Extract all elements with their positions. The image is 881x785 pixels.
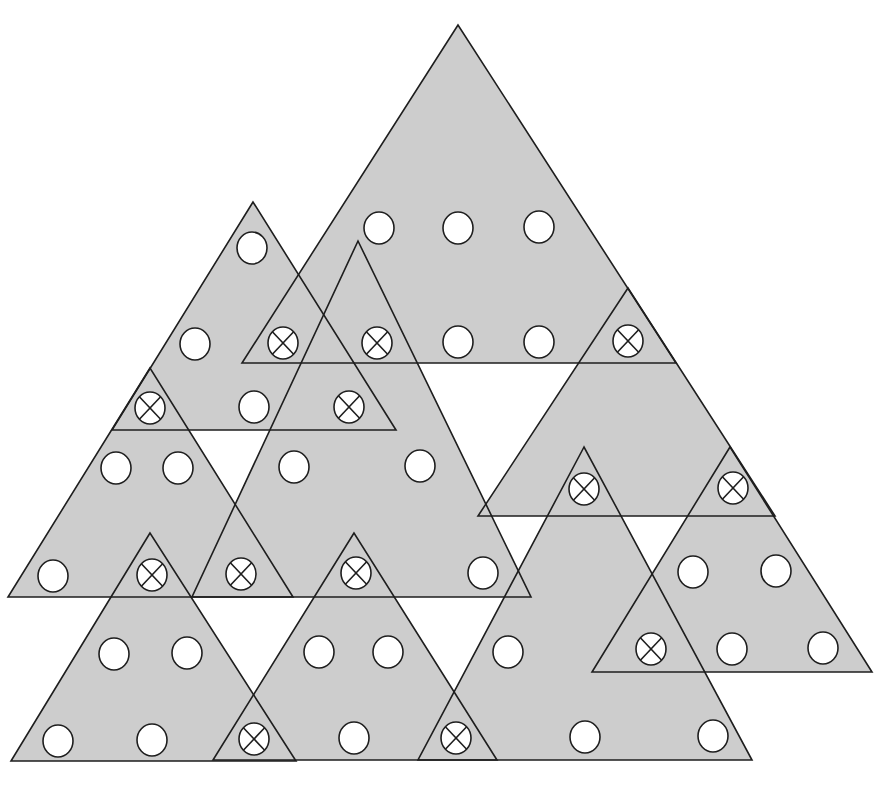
crossed-circle-icon bbox=[441, 722, 471, 754]
crossed-circle-icon bbox=[718, 472, 748, 504]
diagram-canvas bbox=[0, 0, 881, 785]
open-circle-icon bbox=[101, 452, 131, 484]
open-circle-icon bbox=[304, 636, 334, 668]
open-circle-icon bbox=[405, 450, 435, 482]
open-circle-icon bbox=[468, 557, 498, 589]
open-circle-icon bbox=[339, 722, 369, 754]
open-circle-icon bbox=[373, 636, 403, 668]
open-circle-icon bbox=[570, 721, 600, 753]
open-circle-icon bbox=[172, 637, 202, 669]
open-circle-icon bbox=[364, 212, 394, 244]
open-circle-icon bbox=[678, 556, 708, 588]
crossed-circle-icon bbox=[636, 633, 666, 665]
open-circle-icon bbox=[163, 452, 193, 484]
open-circle-icon bbox=[808, 632, 838, 664]
open-circle-icon bbox=[137, 724, 167, 756]
crossed-circle-icon bbox=[137, 559, 167, 591]
open-circle-icon bbox=[698, 720, 728, 752]
open-circle-icon bbox=[524, 326, 554, 358]
open-circle-icon bbox=[443, 212, 473, 244]
open-circle-icon bbox=[443, 326, 473, 358]
open-circle-icon bbox=[279, 451, 309, 483]
crossed-circle-icon bbox=[135, 392, 165, 424]
open-circle-icon bbox=[237, 232, 267, 264]
crossed-circle-icon bbox=[341, 557, 371, 589]
open-circle-icon bbox=[761, 555, 791, 587]
crossed-circle-icon bbox=[613, 325, 643, 357]
crossed-circle-icon bbox=[226, 558, 256, 590]
crossed-circle-icon bbox=[239, 723, 269, 755]
open-circle-icon bbox=[43, 725, 73, 757]
open-circle-icon bbox=[239, 391, 269, 423]
open-circle-icon bbox=[524, 211, 554, 243]
crossed-circle-icon bbox=[334, 391, 364, 423]
open-circle-icon bbox=[493, 636, 523, 668]
triangle-circle-diagram bbox=[0, 0, 881, 785]
crossed-circle-icon bbox=[362, 327, 392, 359]
crossed-circle-icon bbox=[569, 473, 599, 505]
crossed-circle-icon bbox=[268, 327, 298, 359]
open-circle-icon bbox=[180, 328, 210, 360]
open-circle-icon bbox=[717, 633, 747, 665]
open-circle-icon bbox=[38, 560, 68, 592]
open-circle-icon bbox=[99, 638, 129, 670]
